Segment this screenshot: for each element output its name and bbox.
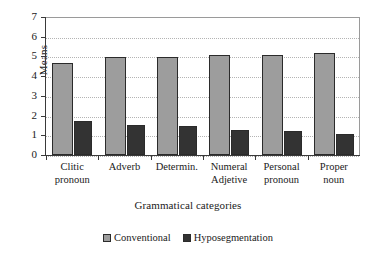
- y-tick-label: 0: [11, 149, 37, 160]
- x-axis-title: Grammatical categories: [0, 199, 376, 212]
- y-tick-mark: [41, 96, 46, 97]
- bar-conventional: [52, 63, 73, 155]
- y-tick-mark: [41, 56, 46, 57]
- y-tick-label: 3: [11, 90, 37, 101]
- y-tick-label: 2: [11, 110, 37, 121]
- chart-legend: Conventional Hyposegmentation: [0, 232, 376, 244]
- gridline: [46, 117, 359, 118]
- y-tick-mark: [41, 76, 46, 77]
- y-tick-label: 1: [11, 129, 37, 140]
- bar-hyposegmentation: [127, 125, 145, 155]
- legend-label-conventional: Conventional: [114, 232, 171, 244]
- bar-hyposegmentation: [74, 121, 92, 156]
- legend-swatch-icon-conventional: [103, 234, 111, 242]
- bar-hyposegmentation: [231, 130, 249, 155]
- legend-item-hyposegmentation: Hyposegmentation: [183, 232, 273, 244]
- bar-conventional: [209, 55, 230, 155]
- plot-area: [46, 17, 360, 155]
- gridline: [46, 57, 359, 58]
- bar-hyposegmentation: [336, 134, 354, 155]
- gridline: [46, 77, 359, 78]
- bar-conventional: [314, 53, 335, 155]
- bar-hyposegmentation: [179, 126, 197, 155]
- y-tick-label: 6: [11, 31, 37, 42]
- gridline: [46, 97, 359, 98]
- y-tick-mark: [41, 116, 46, 117]
- bar-conventional: [157, 57, 178, 155]
- gridline: [46, 136, 359, 137]
- y-tick-mark: [41, 37, 46, 38]
- legend-label-hyposegmentation: Hyposegmentation: [194, 232, 273, 244]
- gridline: [46, 38, 359, 39]
- bar-chart: Means 01234567 Clitic pronounAdverbDeter…: [0, 0, 376, 266]
- y-tick-label: 5: [11, 50, 37, 61]
- legend-swatch-icon-hyposegmentation: [183, 234, 191, 242]
- legend-item-conventional: Conventional: [103, 232, 171, 244]
- y-tick-mark: [41, 135, 46, 136]
- bar-conventional: [262, 55, 283, 155]
- y-tick-label: 4: [11, 70, 37, 81]
- bar-hyposegmentation: [284, 131, 302, 155]
- x-tick-label: Proper noun: [302, 160, 366, 186]
- y-tick-label: 7: [11, 11, 37, 22]
- y-tick-mark: [41, 17, 46, 18]
- bar-conventional: [105, 57, 126, 155]
